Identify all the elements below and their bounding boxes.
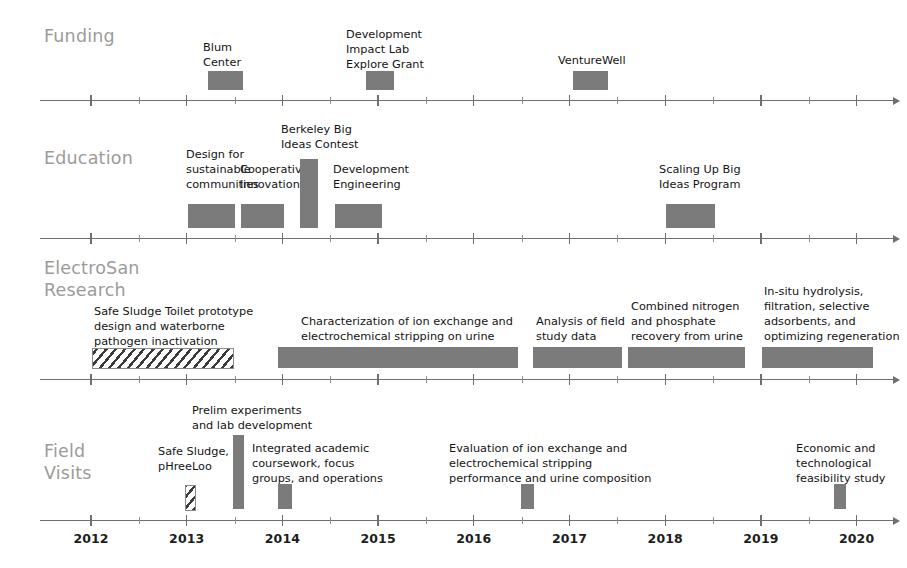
year-label-2015: 2015: [360, 531, 395, 546]
bar-label-cooperative-innovation: Cooperative Innovation: [240, 163, 309, 193]
year-label-2018: 2018: [648, 531, 683, 546]
axis-tick-minor: [713, 97, 714, 104]
axis-line-funding: [40, 100, 895, 101]
axis-tick-minor: [330, 97, 331, 104]
axis-tick-2015: [377, 95, 378, 106]
bar-label-economic-technological-feasibility: Economic and technological feasibility s…: [796, 442, 886, 487]
timeline-row-funding: Funding Blum Center Development Impact L…: [0, 0, 907, 110]
axis-tick-2012: [90, 515, 91, 526]
axis-tick-2013: [186, 95, 187, 106]
bar-design-sustainable-communities: [188, 204, 235, 228]
year-label-2016: 2016: [456, 531, 491, 546]
axis-tick-minor: [426, 376, 427, 383]
axis-tick-minor: [139, 376, 140, 383]
axis-tick-minor: [617, 97, 618, 104]
axis-tick-2018: [665, 515, 666, 526]
row-label-education: Education: [44, 148, 133, 170]
bar-safe-sludge-phreeloo: [185, 485, 196, 511]
row-label-electrosan-research: ElectroSan Research: [44, 258, 140, 302]
timeline-row-education: Education Design for sustainable communi…: [0, 110, 907, 240]
axis-tick-minor: [330, 517, 331, 524]
bar-label-safe-sludge-phreeloo: Safe Sludge, pHreeLoo: [158, 445, 229, 475]
timeline-figure: Funding Blum Center Development Impact L…: [0, 0, 907, 568]
bar-label-characterization-ion-exchange: Characterization of ion exchange and ele…: [301, 315, 513, 345]
bar-economic-technological-feasibility: [834, 484, 846, 509]
row-label-funding: Funding: [44, 26, 115, 48]
axis-tick-minor: [713, 517, 714, 524]
bar-evaluation-ion-exchange: [521, 484, 534, 509]
axis-tick-2016: [473, 515, 474, 526]
axis-line-field-visits: [40, 520, 895, 521]
axis-tick-2019: [760, 515, 761, 526]
axis-tick-2018: [665, 374, 666, 385]
axis-tick-2014: [282, 374, 283, 385]
axis-line-electrosan-research: [40, 379, 895, 380]
axis-tick-2019: [760, 95, 761, 106]
axis-tick-2019: [760, 374, 761, 385]
bar-cooperative-innovation: [241, 204, 284, 228]
axis-tick-minor: [809, 517, 810, 524]
bar-label-prelim-experiments: Prelim experiments and lab development: [192, 404, 312, 434]
axis-tick-2020: [856, 95, 857, 106]
axis-tick-2014: [282, 515, 283, 526]
bar-label-integrated-academic-coursework: Integrated academic coursework, focus gr…: [252, 442, 383, 487]
year-label-2019: 2019: [743, 531, 778, 546]
axis-tick-2016: [473, 95, 474, 106]
axis-line-education: [40, 238, 895, 239]
axis-tick-minor: [809, 376, 810, 383]
axis-tick-minor: [617, 517, 618, 524]
axis-tick-minor: [713, 376, 714, 383]
axis-tick-2020: [856, 515, 857, 526]
axis-tick-2015: [377, 374, 378, 385]
year-label-2014: 2014: [265, 531, 300, 546]
bar-label-venturewell: VentureWell: [558, 54, 626, 69]
axis-tick-2016: [473, 374, 474, 385]
year-label-2012: 2012: [73, 531, 108, 546]
axis-tick-2017: [569, 515, 570, 526]
axis-tick-2017: [569, 95, 570, 106]
axis-arrow-field-visits: [893, 517, 900, 525]
row-label-field-visits: Field Visits: [44, 441, 92, 485]
axis-tick-2013: [186, 515, 187, 526]
axis-tick-minor: [235, 376, 236, 383]
bar-blum-center: [208, 71, 243, 90]
bar-integrated-academic-coursework: [278, 484, 292, 509]
axis-tick-2013: [186, 374, 187, 385]
axis-tick-minor: [235, 97, 236, 104]
bar-label-in-situ-hydrolysis: In-situ hydrolysis, filtration, selectiv…: [764, 285, 900, 345]
axis-tick-minor: [617, 376, 618, 383]
axis-arrow-funding: [893, 97, 900, 105]
bar-label-blum-center: Blum Center: [203, 41, 241, 71]
bar-berkeley-big-ideas-contest: [300, 159, 318, 228]
bar-prelim-experiments: [233, 435, 244, 509]
bar-in-situ-hydrolysis: [762, 347, 873, 368]
bar-development-impact-lab: [366, 71, 394, 90]
bar-scaling-up-big-ideas-program: [666, 204, 715, 228]
axis-tick-2014: [282, 95, 283, 106]
bar-label-berkeley-big-ideas-contest: Berkeley Big Ideas Contest: [281, 123, 359, 153]
axis-tick-minor: [330, 376, 331, 383]
bar-characterization-ion-exchange: [278, 347, 518, 368]
axis-tick-2018: [665, 95, 666, 106]
bar-label-scaling-up-big-ideas-program: Scaling Up Big Ideas Program: [659, 163, 741, 193]
bar-development-engineering: [335, 204, 382, 228]
axis-tick-minor: [522, 376, 523, 383]
axis-tick-2012: [90, 95, 91, 106]
year-label-2020: 2020: [839, 531, 874, 546]
axis-tick-2012: [90, 374, 91, 385]
axis-tick-2020: [856, 374, 857, 385]
axis-arrow-electrosan-research: [893, 376, 900, 384]
axis-tick-minor: [426, 517, 427, 524]
bar-safe-sludge-toilet-prototype: [92, 348, 234, 369]
bar-analysis-field-study-data: [533, 347, 622, 368]
bar-label-safe-sludge-toilet-prototype: Safe Sludge Toilet prototype design and …: [94, 305, 253, 350]
axis-tick-minor: [139, 517, 140, 524]
bar-label-development-impact-lab: Development Impact Lab Explore Grant: [346, 28, 424, 73]
timeline-row-electrosan-research: ElectroSan Research Safe Sludge Toilet p…: [0, 240, 907, 390]
axis-tick-2017: [569, 374, 570, 385]
axis-tick-minor: [522, 97, 523, 104]
bar-label-analysis-field-study-data: Analysis of field study data: [536, 315, 625, 345]
year-label-2017: 2017: [552, 531, 587, 546]
axis-tick-2015: [377, 515, 378, 526]
axis-tick-minor: [139, 97, 140, 104]
